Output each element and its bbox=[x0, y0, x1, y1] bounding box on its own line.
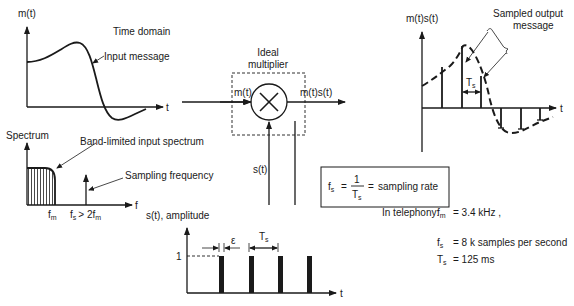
sampled-output-pointer-2 bbox=[484, 53, 506, 77]
pulse-period-label: Ts bbox=[259, 231, 269, 243]
fs-condition-label: fs> 2fm bbox=[70, 209, 101, 221]
sampled-period-label: Ts bbox=[466, 77, 476, 89]
sampled-output-x-label: t bbox=[560, 103, 563, 114]
multiplier-sampling-label: s(t) bbox=[253, 164, 267, 175]
time-domain-panel: m(t) t Time domain Input message bbox=[18, 8, 170, 120]
spectrum-y-label: Spectrum bbox=[6, 130, 49, 141]
spectrum-x-label: f bbox=[135, 200, 138, 211]
multiplier-input-label: m(t) bbox=[234, 87, 252, 98]
telephony-notes: In telephony: fm= 3.4 kHz , fs= 8 k samp… bbox=[382, 207, 567, 266]
formula-numerator: 1 bbox=[354, 174, 360, 185]
pulse-train-x-label: t bbox=[340, 288, 343, 299]
sampling-frequency-label: Sampling frequency bbox=[125, 170, 213, 181]
formula-equals-2: = bbox=[368, 181, 374, 192]
telephony-row-fm: fm= 3.4 kHz , bbox=[437, 207, 501, 219]
sampled-output-title-line1: Sampled output bbox=[493, 8, 563, 19]
time-domain-x-label: t bbox=[166, 102, 169, 113]
formula-rhs: sampling rate bbox=[378, 181, 438, 192]
sampled-output-title-line2: message bbox=[513, 20, 554, 31]
pulse-train-panel: s(t), amplitude t 1 ε Ts bbox=[146, 210, 343, 299]
telephony-intro: In telephony: bbox=[382, 207, 439, 218]
sampled-output-brace bbox=[487, 29, 508, 54]
epsilon-label: ε bbox=[231, 235, 236, 246]
pulse-train-y-label: s(t), amplitude bbox=[146, 210, 210, 221]
sampling-diagram: m(t) t Time domain Input message Spectru… bbox=[0, 0, 574, 306]
fm-tick-label: fm bbox=[48, 209, 57, 221]
multiplier-title-line1: Ideal bbox=[257, 47, 279, 58]
input-message-pointer bbox=[93, 56, 104, 63]
sampling-frequency-pointer bbox=[89, 178, 123, 190]
multiplier-title-line2: multiplier bbox=[248, 59, 289, 70]
time-domain-title: Time domain bbox=[113, 26, 170, 37]
input-message-label: Input message bbox=[104, 51, 170, 62]
band-limited-spectrum-hatch bbox=[27, 168, 55, 205]
sampled-output-panel: m(t)s(t) t Sampled output message Ts bbox=[406, 8, 563, 152]
spectrum-panel: Spectrum f Band-limited input spectrum S… bbox=[6, 130, 213, 221]
band-limited-label: Band-limited input spectrum bbox=[80, 136, 204, 147]
pulses bbox=[219, 256, 312, 293]
multiplier-output-label: m(t)s(t) bbox=[300, 87, 332, 98]
time-domain-y-label: m(t) bbox=[18, 8, 36, 19]
telephony-row-fs: fs= 8 k samples per second bbox=[437, 237, 567, 249]
sampling-rate-formula-box: fs = 1 Ts = sampling rate bbox=[321, 167, 449, 207]
telephony-row-ts: Ts= 125 ms bbox=[437, 254, 494, 266]
sampled-output-y-label: m(t)s(t) bbox=[406, 13, 438, 24]
amplitude-tick-label: 1 bbox=[176, 251, 182, 262]
formula-equals-1: = bbox=[341, 181, 347, 192]
